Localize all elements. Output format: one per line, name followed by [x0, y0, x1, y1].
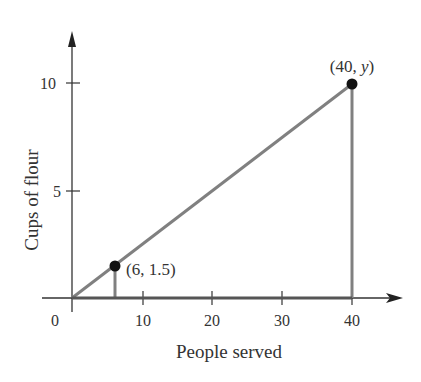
point-label-suffix: )	[369, 57, 375, 76]
y-axis	[66, 31, 80, 312]
data-point-40-y	[347, 79, 358, 90]
x-axis-title: People served	[176, 341, 283, 362]
point-label-6-1.5: (6, 1.5)	[126, 260, 176, 279]
point-label-prefix: (40,	[330, 57, 361, 76]
chart-svg: 10 5 0 10 20 30 40 People served Cups of…	[0, 0, 421, 382]
x-tick-label-20: 20	[204, 312, 220, 329]
y-axis-arrow-icon	[68, 31, 76, 47]
y-tick-label-10: 10	[40, 75, 56, 92]
point-label-variable: y	[359, 57, 369, 76]
chart-root: 10 5 0 10 20 30 40 People served Cups of…	[0, 0, 421, 382]
origin-label: 0	[51, 312, 59, 329]
data-point-6-1.5	[110, 261, 121, 272]
y-tick-label-5: 5	[53, 183, 61, 200]
x-tick-label-30: 30	[274, 312, 290, 329]
x-tick-label-10: 10	[135, 312, 151, 329]
y-axis-title: Cups of flour	[21, 149, 42, 251]
point-label-40-y: (40, y)	[330, 57, 374, 76]
x-tick-label-40: 40	[344, 312, 360, 329]
